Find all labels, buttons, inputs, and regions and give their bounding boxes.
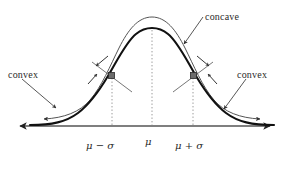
axis-tick-label-mu: μ — [145, 136, 152, 147]
inflection-point-marker-left — [109, 73, 115, 79]
figure-canvas: concave convex convex μ − σ μ μ + σ — [0, 0, 289, 169]
outer-curve-right-half — [152, 17, 260, 119]
tangent-arrow-right-lower — [208, 74, 217, 84]
tangent-arrow-left-upper — [96, 56, 108, 66]
leader-line-convex-left — [22, 79, 56, 108]
inflection-left-group — [88, 56, 132, 92]
annotation-label-concave: concave — [205, 11, 239, 22]
axis-tick-label-mu-minus-sigma: μ − σ — [86, 140, 114, 151]
guide-lines — [112, 30, 193, 125]
tangent-arrow-left-lower — [88, 74, 97, 84]
outer-curve-left-half — [44, 17, 152, 119]
inflection-right-group — [173, 56, 217, 92]
inflection-point-marker-right — [191, 73, 197, 79]
annotation-label-convex-right: convex — [237, 69, 267, 80]
annotation-label-convex-left: convex — [8, 69, 38, 80]
tangent-arrow-right-upper — [197, 56, 209, 66]
leader-line-concave — [184, 17, 203, 44]
leader-line-convex-right — [224, 79, 246, 109]
axis-tick-label-mu-plus-sigma: μ + σ — [175, 140, 203, 151]
